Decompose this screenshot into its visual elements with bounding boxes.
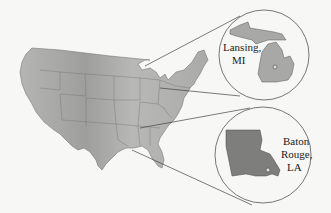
lansing-label-line2: MI: [232, 54, 246, 66]
us-map: [20, 48, 208, 170]
lansing-label-line1: Lansing,: [223, 41, 261, 53]
baton-rouge-marker: [266, 168, 270, 172]
baton-rouge-label-line2: Rouge,: [281, 148, 313, 160]
lansing-marker: [273, 65, 277, 69]
baton-rouge-label-line3: LA: [287, 161, 302, 173]
map-figure: Lansing, MI Baton Rouge, LA: [0, 0, 331, 213]
baton-rouge-label-line1: Baton: [283, 135, 310, 147]
